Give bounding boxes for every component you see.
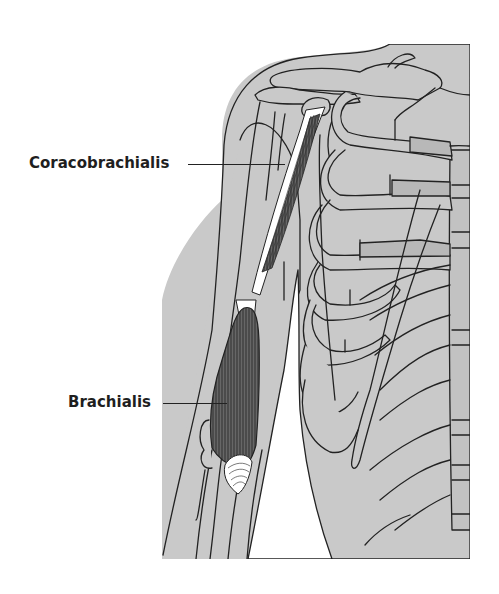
anatomy-figure: Coracobrachialis Brachialis [0,0,499,594]
sternum [449,150,470,530]
arm-shoulder-illustration [0,0,499,594]
label-coracobrachialis: Coracobrachialis [29,156,169,171]
label-brachialis: Brachialis [68,395,151,410]
leader-line-coracobrachialis [188,164,285,165]
leader-line-brachialis [163,403,227,404]
